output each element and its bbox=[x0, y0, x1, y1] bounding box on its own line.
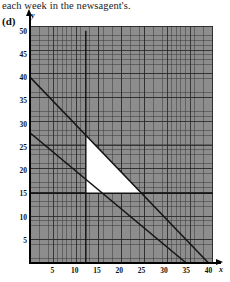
y-tick-5: 5 bbox=[11, 236, 27, 245]
y-axis bbox=[29, 14, 31, 264]
x-tick-20: 20 bbox=[111, 266, 127, 275]
y-tick-40: 40 bbox=[11, 73, 27, 82]
x-tick-35: 35 bbox=[178, 266, 194, 275]
y-tick-20: 20 bbox=[11, 166, 27, 175]
x-axis-label: x bbox=[219, 265, 223, 274]
x-axis bbox=[29, 262, 221, 264]
constraint-line-upper bbox=[30, 77, 209, 263]
x-tick-25: 25 bbox=[134, 266, 150, 275]
plot-area bbox=[30, 26, 213, 263]
y-axis-label: y bbox=[31, 11, 35, 20]
y-tick-10: 10 bbox=[11, 213, 27, 222]
y-tick-15: 15 bbox=[11, 189, 27, 198]
constraint-line-lower bbox=[30, 133, 186, 263]
y-tick-25: 25 bbox=[11, 143, 27, 152]
y-tick-45: 45 bbox=[11, 50, 27, 59]
x-tick-30: 30 bbox=[156, 266, 172, 275]
constraint-lines bbox=[30, 26, 213, 263]
x-tick-15: 15 bbox=[89, 266, 105, 275]
y-tick-30: 30 bbox=[11, 120, 27, 129]
x-tick-5: 5 bbox=[44, 266, 60, 275]
x-tick-10: 10 bbox=[67, 266, 83, 275]
x-tick-40: 40 bbox=[201, 266, 217, 275]
y-tick-35: 35 bbox=[11, 96, 27, 105]
y-tick-50: 50 bbox=[11, 27, 27, 36]
graph-figure: y x 5045403530252015105 510152025303540 bbox=[0, 0, 230, 282]
